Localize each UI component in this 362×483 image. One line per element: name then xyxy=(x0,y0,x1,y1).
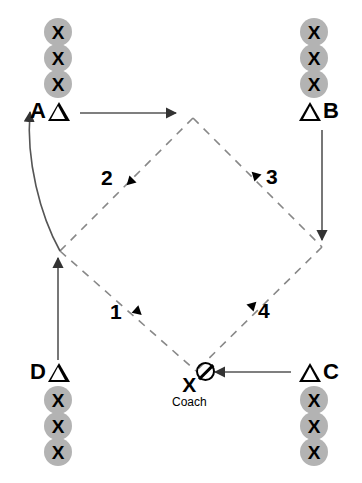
player-stack-c: X X X xyxy=(300,386,328,464)
path-number-4: 4 xyxy=(258,300,270,321)
station-label-d: D xyxy=(30,361,70,383)
station-label-b: B xyxy=(299,100,339,122)
player-stack-a: X X X xyxy=(44,18,72,96)
station-label-c: C xyxy=(299,361,339,383)
path-number-3: 3 xyxy=(266,166,278,187)
station-letter-c: C xyxy=(323,361,339,383)
curved-arrow-return-to-a xyxy=(29,112,60,251)
player-marker: X xyxy=(300,18,328,46)
cone-triangle-icon xyxy=(299,102,321,121)
station-letter-d: D xyxy=(30,361,46,383)
coach-marker: X Coach xyxy=(172,374,207,408)
drill-diagram: X X X A X X X B D X X X C X X X X Coach xyxy=(0,0,362,483)
player-marker: X xyxy=(300,386,328,414)
player-marker: X xyxy=(44,386,72,414)
player-marker: X xyxy=(300,438,328,466)
coach-x-glyph: X xyxy=(182,374,196,395)
player-marker: X xyxy=(44,412,72,440)
diamond-direction-arrowheads xyxy=(123,168,261,319)
path-number-2: 2 xyxy=(101,167,113,188)
diamond-path xyxy=(60,118,322,371)
player-stack-d: X X X xyxy=(44,386,72,464)
player-marker: X xyxy=(300,44,328,72)
player-marker: X xyxy=(44,70,72,98)
diamond-edge-bottom-left xyxy=(60,251,196,371)
arrowhead-path-1 xyxy=(132,305,145,318)
player-marker: X xyxy=(44,438,72,466)
path-number-1: 1 xyxy=(110,301,122,322)
cone-triangle-icon xyxy=(48,102,70,121)
cone-triangle-icon xyxy=(299,363,321,382)
player-marker: X xyxy=(300,70,328,98)
cone-triangle-icon xyxy=(48,363,70,382)
player-marker: X xyxy=(300,412,328,440)
player-stack-b: X X X xyxy=(300,18,328,96)
player-marker: X xyxy=(44,44,72,72)
station-letter-b: B xyxy=(323,100,339,122)
diamond-edge-top-right xyxy=(193,118,322,247)
station-letter-a: A xyxy=(30,100,46,122)
coach-label: Coach xyxy=(172,396,207,408)
player-marker: X xyxy=(44,18,72,46)
station-label-a: A xyxy=(30,100,70,122)
diamond-edge-top-left xyxy=(60,118,193,251)
